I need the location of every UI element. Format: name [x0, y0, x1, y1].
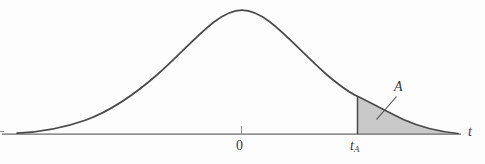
area-label-a: A [394, 80, 403, 94]
axis-name-label-t: t [468, 125, 472, 139]
t-distribution-figure: 0 tA t A [0, 0, 485, 164]
axis-tick-label-zero: 0 [236, 139, 243, 153]
axis-tick-label-critical-value: tA [350, 139, 359, 153]
critical-value-subscript: A [354, 144, 360, 154]
shaded-tail-area [358, 97, 459, 135]
